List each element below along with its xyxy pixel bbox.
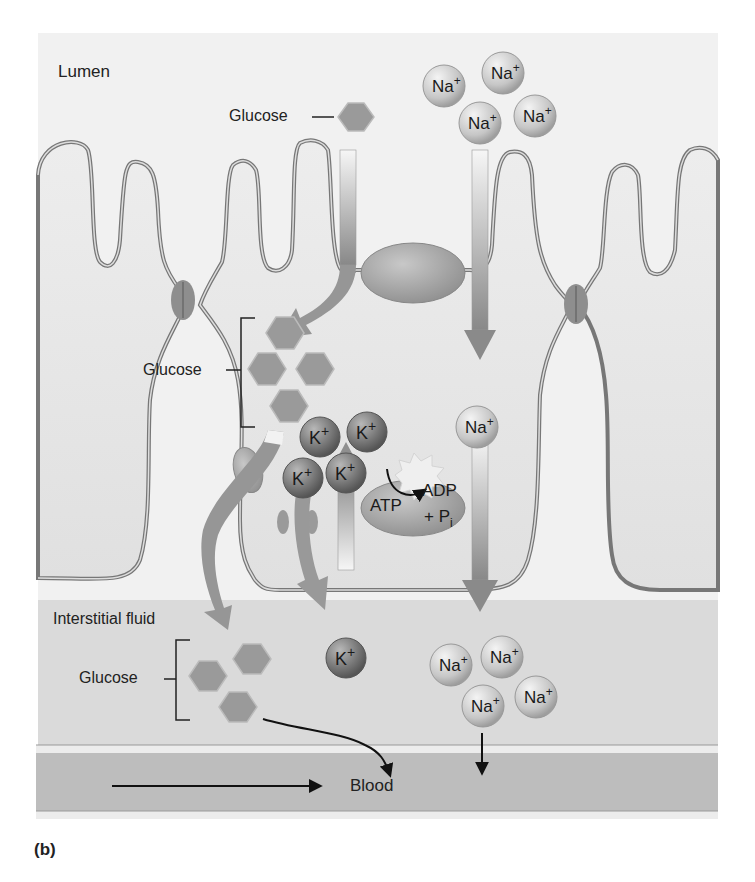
glucose-label-cell: Glucose: [143, 361, 202, 379]
atp-label: ATP: [370, 496, 402, 515]
tight-junction-left: [171, 280, 195, 320]
interstitial-fluid-label: Interstitial fluid: [53, 610, 155, 628]
glucose-label-lumen: Glucose: [229, 107, 288, 125]
blood-label: Blood: [350, 776, 393, 796]
glucose-transport-diagram: Na+ Na+ Na+ Na+ Na+ Na+ Na+ Na+ Na+ K+ K…: [0, 0, 755, 882]
tight-junction-right: [564, 284, 588, 324]
glucose-label-interstitial: Glucose: [79, 669, 138, 687]
lumen-label: Lumen: [58, 62, 110, 82]
adp-label: ADP: [422, 481, 457, 500]
vessel-wall-bottom: [36, 811, 718, 819]
sglt-symporter: [361, 243, 465, 303]
panel-label: (b): [34, 840, 56, 860]
